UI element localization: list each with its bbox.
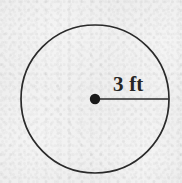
circle-radius-figure: 3 ft [0, 0, 182, 183]
geometry-diagram-canvas [0, 0, 182, 183]
center-dot [90, 94, 100, 104]
radius-measurement-label: 3 ft [113, 74, 144, 95]
